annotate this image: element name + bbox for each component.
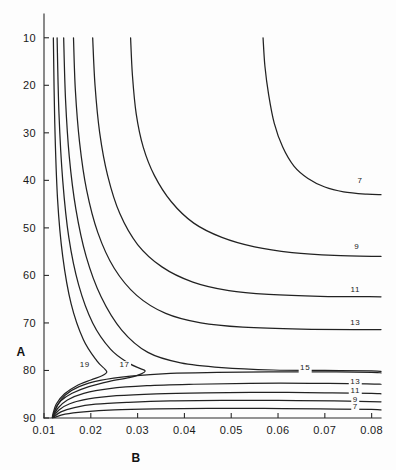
contour-label-13-3: 13 xyxy=(350,318,360,327)
x-tick-label-0.04: 0.04 xyxy=(173,424,196,436)
y-tick-label-70: 30 xyxy=(23,127,36,139)
x-tick-label-0.08: 0.08 xyxy=(360,424,383,436)
contour-labels-group: 791113151311971917 xyxy=(78,176,364,412)
contour-label-15-4: 15 xyxy=(300,363,310,372)
y-tick-labels: 908070605040302010 xyxy=(23,32,36,424)
x-axis-title: B xyxy=(131,451,140,465)
y-tick-label-30: 70 xyxy=(23,317,36,329)
contour-line-level-17 xyxy=(53,38,145,417)
x-tick-label-0.03: 0.03 xyxy=(126,424,149,436)
contour-line-level-7 xyxy=(54,408,381,417)
contour-label-19-9: 19 xyxy=(80,360,90,369)
x-tick-label-0.05: 0.05 xyxy=(220,424,243,436)
contour-label-11-2: 11 xyxy=(350,285,360,294)
x-tick-label-0.02: 0.02 xyxy=(79,424,102,436)
contour-line-level-7 xyxy=(263,38,381,195)
contour-label-7-8: 7 xyxy=(353,402,358,411)
contour-line-level-11 xyxy=(53,392,381,417)
y-axis-title: A xyxy=(16,345,25,359)
contour-line-level-13 xyxy=(73,38,381,330)
plot-svg: 791113151311971917 908070605040302010 0.… xyxy=(0,0,396,470)
contour-label-7-0: 7 xyxy=(357,176,362,185)
contour-line-level-11 xyxy=(93,38,381,297)
y-tick-label-50: 50 xyxy=(23,222,36,234)
contour-line-level-15 xyxy=(64,38,381,372)
contour-label-17-10: 17 xyxy=(119,360,129,369)
contour-label-13-5: 13 xyxy=(350,377,360,386)
x-tick-label-0.07: 0.07 xyxy=(313,424,336,436)
x-tick-labels: 0.010.020.030.040.050.060.070.08 xyxy=(32,424,383,436)
x-tick-label-0.06: 0.06 xyxy=(267,424,290,436)
x-tick-label-0.01: 0.01 xyxy=(32,424,55,436)
y-tick-marks xyxy=(44,38,49,418)
y-tick-label-10: 90 xyxy=(23,412,36,424)
contour-lines-group xyxy=(52,38,381,418)
x-tick-marks xyxy=(44,413,372,418)
y-tick-label-60: 40 xyxy=(23,174,36,186)
contour-line-level-9 xyxy=(131,38,381,257)
y-tick-label-90: 10 xyxy=(23,32,36,44)
y-tick-label-80: 20 xyxy=(23,79,36,91)
y-tick-label-40: 60 xyxy=(23,269,36,281)
y-tick-label-20: 80 xyxy=(23,364,36,376)
contour-label-9-1: 9 xyxy=(354,242,359,251)
contour-plot-figure: 791113151311971917 908070605040302010 0.… xyxy=(0,0,396,470)
